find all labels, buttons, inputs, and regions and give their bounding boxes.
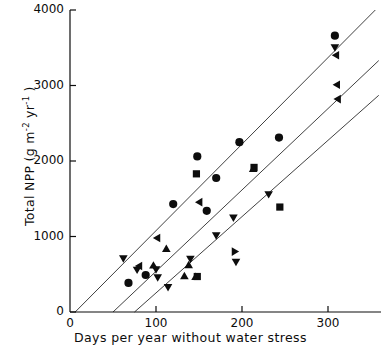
data-point-triangle-left	[153, 234, 160, 243]
data-point-square	[276, 203, 283, 210]
data-point-square	[193, 170, 200, 177]
data-point-circle	[235, 138, 243, 146]
data-point-circle	[203, 207, 211, 215]
data-point-triangle-up	[149, 261, 158, 268]
data-point-triangle-down	[212, 232, 221, 239]
y-axis-label-mid: yr	[22, 105, 37, 122]
x-axis-tick-label: 100	[136, 316, 176, 330]
y-axis-tick-label: 3000	[8, 78, 64, 92]
data-point-circle	[142, 271, 150, 279]
y-axis-label-exp2: -1	[21, 96, 31, 105]
y-axis-tick-label: 4000	[8, 2, 64, 16]
data-point-triangle-left	[333, 80, 340, 89]
npp-scatter-chart	[0, 0, 381, 356]
data-point-triangle-down	[164, 284, 173, 291]
data-point-triangle-left	[195, 198, 202, 207]
data-point-circle	[169, 200, 177, 208]
x-axis-tick-label: 200	[222, 316, 262, 330]
data-point-circle	[275, 133, 283, 141]
data-point-circle	[193, 152, 201, 160]
y-axis-tick-label: 2000	[8, 153, 64, 167]
data-point-triangle-up	[162, 245, 171, 252]
upper-line	[75, 10, 375, 312]
data-point-circle	[124, 279, 132, 287]
data-point-circle	[331, 32, 339, 40]
data-point-triangle-down	[153, 274, 162, 281]
data-point-triangle-right	[232, 247, 239, 256]
data-point-triangle-down	[119, 255, 128, 262]
data-point-circle	[212, 174, 220, 182]
data-point-triangle-down	[232, 259, 241, 266]
y-axis-tick-label: 1000	[8, 229, 64, 243]
data-point-triangle-down	[264, 191, 273, 198]
x-axis-tick-label: 0	[50, 316, 90, 330]
y-axis-label-exp1: -2	[21, 122, 31, 131]
data-points-group	[119, 32, 341, 292]
y-axis-label-prefix: Total NPP (g m	[22, 131, 37, 226]
x-axis-label: Days per year without water stress	[0, 330, 381, 345]
data-point-triangle-down	[229, 215, 238, 222]
data-point-triangle-up	[184, 261, 193, 268]
x-axis-tick-label: 300	[308, 316, 348, 330]
data-point-triangle-up	[180, 272, 189, 279]
